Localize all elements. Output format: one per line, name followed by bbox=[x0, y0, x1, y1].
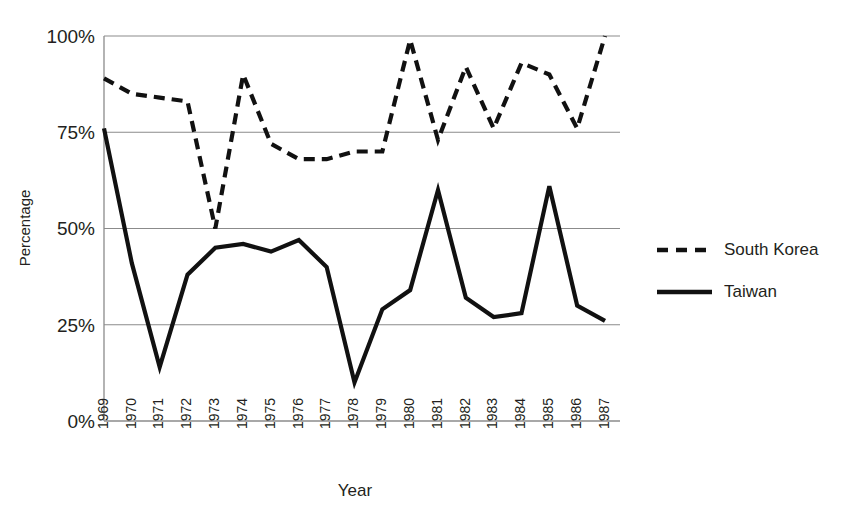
y-tick-label-75: 75% bbox=[57, 122, 95, 143]
y-tick-label-50: 50% bbox=[57, 218, 95, 239]
chart-background bbox=[0, 0, 848, 516]
x-tick-label-1983: 1983 bbox=[484, 398, 500, 429]
x-tick-label-1975: 1975 bbox=[262, 398, 278, 429]
legend-label-taiwan: Taiwan bbox=[724, 282, 777, 301]
x-tick-label-1969: 1969 bbox=[95, 398, 111, 429]
x-tick-label-1973: 1973 bbox=[206, 398, 222, 429]
x-tick-label-1979: 1979 bbox=[373, 398, 389, 429]
x-tick-label-1984: 1984 bbox=[512, 398, 528, 429]
y-tick-label-100: 100% bbox=[46, 26, 95, 47]
x-tick-label-1978: 1978 bbox=[345, 398, 361, 429]
x-tick-label-1970: 1970 bbox=[123, 398, 139, 429]
x-tick-label-1971: 1971 bbox=[150, 398, 166, 429]
y-tick-label-25: 25% bbox=[57, 315, 95, 336]
y-axis-title: Percentage bbox=[16, 190, 33, 267]
x-tick-label-1974: 1974 bbox=[234, 398, 250, 429]
x-tick-label-1972: 1972 bbox=[178, 398, 194, 429]
x-tick-label-1980: 1980 bbox=[401, 398, 417, 429]
line-chart: 100% 75% 50% 25% 0% Percentage 196919701… bbox=[0, 0, 848, 516]
y-tick-label-0: 0% bbox=[68, 411, 96, 432]
x-tick-label-1982: 1982 bbox=[457, 398, 473, 429]
x-tick-label-1977: 1977 bbox=[317, 398, 333, 429]
x-tick-label-1976: 1976 bbox=[290, 398, 306, 429]
x-tick-label-1987: 1987 bbox=[596, 398, 612, 429]
x-tick-label-1985: 1985 bbox=[540, 398, 556, 429]
x-tick-label-1986: 1986 bbox=[568, 398, 584, 429]
legend-label-south-korea: South Korea bbox=[724, 240, 819, 259]
x-axis-title: Year bbox=[338, 481, 373, 500]
x-tick-label-1981: 1981 bbox=[429, 398, 445, 429]
